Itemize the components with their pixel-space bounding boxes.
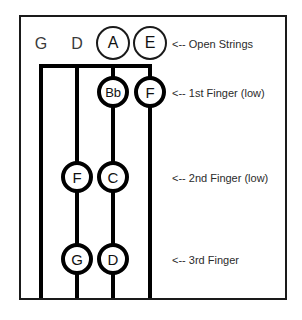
annotation-open-strings: <-- Open Strings bbox=[172, 38, 253, 50]
note-second-finger-f[interactable]: F bbox=[61, 161, 93, 193]
note-second-finger-c[interactable]: C bbox=[97, 161, 129, 193]
open-string-label-g: G bbox=[31, 35, 51, 53]
note-third-finger-g[interactable]: G bbox=[61, 243, 93, 275]
annotation-third-finger: <-- 3rd Finger bbox=[172, 254, 239, 266]
note-open-a[interactable]: A bbox=[96, 26, 130, 60]
string-line-g bbox=[39, 64, 43, 298]
open-string-label-d: D bbox=[67, 35, 87, 53]
note-third-finger-d[interactable]: D bbox=[97, 243, 129, 275]
note-open-e[interactable]: E bbox=[133, 26, 167, 60]
nut-bar bbox=[39, 64, 152, 68]
annotation-second-finger: <-- 2nd Finger (low) bbox=[172, 172, 268, 184]
note-first-finger-f[interactable]: F bbox=[134, 76, 166, 108]
note-first-finger-bb[interactable]: Bb bbox=[97, 76, 129, 108]
annotation-first-finger: <-- 1st Finger (low) bbox=[172, 87, 265, 99]
fingerboard-diagram: G D A E Bb F F C G D <-- Open Strings <-… bbox=[0, 0, 302, 320]
